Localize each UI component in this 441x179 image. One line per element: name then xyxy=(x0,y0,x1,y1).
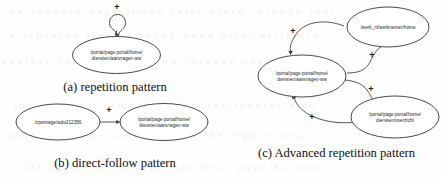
node-label-b-n2-line2: diensten/aanvragen-ww xyxy=(139,123,189,128)
panel-direct-follow-pattern: /xpsimage/wdo212356 /portal/page:portal/… xyxy=(0,98,230,178)
node-ellipse-a-n1[interactable] xyxy=(73,37,161,74)
panel-b-graph: /xpsimage/wdo212356 /portal/page:portal/… xyxy=(0,98,230,160)
node-label-b-n2-line1: /portal/page:portal/home/ xyxy=(138,117,191,122)
node-label-c-n1-line1: /werk_nl/werknemer/home xyxy=(360,25,415,30)
node-label-c-n2-line1: /portal/page:portal/home/ xyxy=(276,71,329,76)
node-label-a-n1-line2: diensten/aanvragen-ww xyxy=(92,56,142,61)
panel-c-caption: (c) Advanced repetition pattern xyxy=(232,146,441,161)
panel-c-graph: + + + + /werk_nl/werknemer/home /portal/… xyxy=(232,0,441,146)
node-label-c-n2-line2: diensten/aanvragen-ww xyxy=(277,77,327,82)
node-label-c-n3-line1: /portal/page:portal/home/ xyxy=(369,112,422,117)
self-loop-edge-a-e1 xyxy=(110,15,126,37)
panel-advanced-repetition-pattern: + + + + /werk_nl/werknemer/home /portal/… xyxy=(232,0,441,179)
edge-label-c-e3: + xyxy=(368,84,373,94)
arrowhead-icon xyxy=(288,51,293,55)
node-ellipse-c-n2[interactable] xyxy=(258,55,346,97)
node-label-c-n3-line2: diensten/overzicht xyxy=(376,118,415,123)
edge-label-c-e4: + xyxy=(309,112,314,122)
panel-a-caption: (a) repetition pattern xyxy=(0,80,230,95)
edge-c-e2 xyxy=(347,44,387,73)
edge-label-c-e2: + xyxy=(369,50,374,60)
edge-c-e1 xyxy=(290,22,344,52)
figure-root: the scanned page shows faint bleed throu… xyxy=(0,0,441,179)
panel-repetition-pattern: + /portal/page:portal/home/ diensten/aan… xyxy=(0,0,230,96)
panel-a-graph: + /portal/page:portal/home/ diensten/aan… xyxy=(0,0,230,80)
edge-label-b-e1: + xyxy=(106,105,111,115)
node-ellipse-c-n3[interactable] xyxy=(351,96,439,138)
node-label-a-n1-line1: /portal/page:portal/home/ xyxy=(90,50,143,55)
panel-b-caption: (b) direct-follow pattern xyxy=(0,156,230,171)
edge-label-a-e1: + xyxy=(114,2,119,12)
edge-label-c-e1: + xyxy=(290,26,295,36)
node-label-b-n1-line1: /xpsimage/wdo212356 xyxy=(35,120,82,125)
node-ellipse-b-n2[interactable] xyxy=(120,104,208,141)
